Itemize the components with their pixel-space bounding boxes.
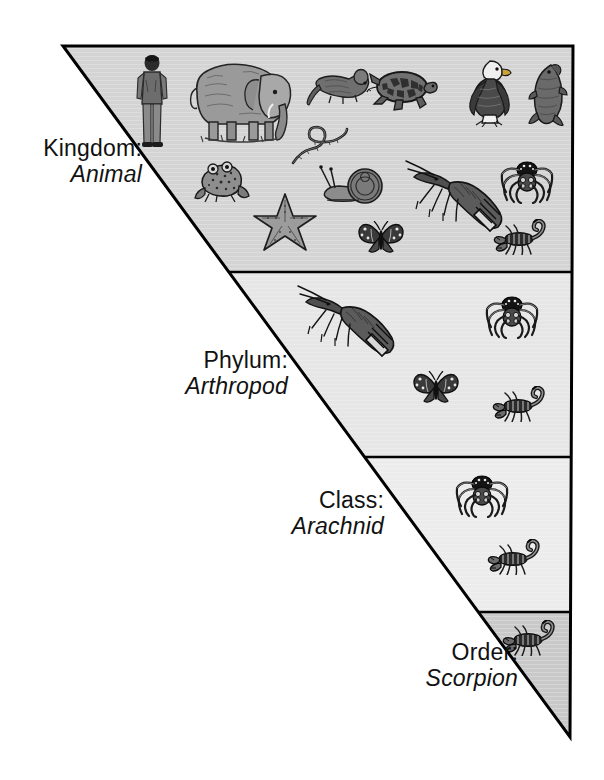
taxon-value-kingdom: Animal [0,162,142,188]
rank-name-phylum: Phylum: [60,348,288,374]
rank-name-kingdom: Kingdom: [0,136,142,162]
taxon-value-class: Arachnid [190,514,384,540]
rank-label-kingdom: Kingdom: Animal [0,136,142,188]
taxon-value-order: Scorpion [300,666,518,692]
rank-name-class: Class: [190,488,384,514]
rank-label-order: Order: Scorpion [300,640,518,692]
rank-label-phylum: Phylum: Arthropod [60,348,288,400]
rank-name-order: Order: [300,640,518,666]
taxonomy-triangle-figure: Kingdom: Animal Phylum: Arthropod Class:… [0,0,604,780]
rank-label-class: Class: Arachnid [190,488,384,540]
taxon-value-phylum: Arthropod [60,374,288,400]
